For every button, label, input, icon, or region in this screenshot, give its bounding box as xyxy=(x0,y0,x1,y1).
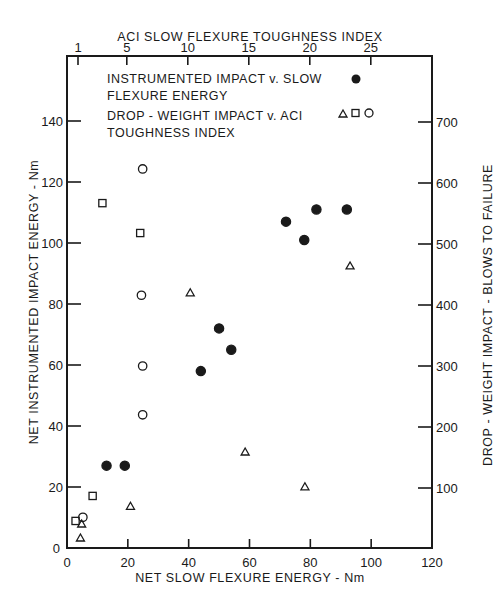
x-tick-label: 60 xyxy=(242,555,256,570)
x-top-tick-label: 1 xyxy=(74,40,81,55)
y-left-tick-label: 40 xyxy=(49,419,63,434)
right-axis-title: DROP - WEIGHT IMPACT - BLOWS TO FAILURE xyxy=(481,164,495,466)
legend: INSTRUMENTED IMPACT v. SLOW FLEXURE ENER… xyxy=(107,72,373,140)
x-tick-label: 40 xyxy=(181,555,195,570)
open-circle-marker xyxy=(79,513,87,521)
top-axis-title: ACI SLOW FLEXURE TOUGHNESS INDEX xyxy=(117,30,382,44)
open-triangle-marker xyxy=(186,289,194,296)
x-tick-label: 80 xyxy=(303,555,317,570)
filled-circle-marker xyxy=(102,461,111,470)
open-square-marker xyxy=(89,492,96,499)
data-markers xyxy=(72,165,354,541)
bottom-axis-title: NET SLOW FLEXURE ENERGY - Nm xyxy=(135,571,365,585)
open-circle-marker xyxy=(137,291,145,299)
x-tick-label: 0 xyxy=(63,555,70,570)
x-tick-label: 20 xyxy=(121,555,135,570)
legend-entry-2-line-2: TOUGHNESS INDEX xyxy=(107,126,235,140)
y-right-tick-label: 700 xyxy=(436,115,458,130)
open-square-marker xyxy=(72,517,79,524)
open-circle-marker xyxy=(138,362,146,370)
filled-circle-marker xyxy=(312,205,321,214)
y-left-tick-label: 80 xyxy=(49,297,63,312)
legend-triangle-icon xyxy=(339,110,347,117)
left-axis-title: NET INSTRUMENTED IMPACT ENERGY - Nm xyxy=(27,160,41,445)
y-left-tick-label: 140 xyxy=(41,114,63,129)
filled-circle-marker xyxy=(120,461,129,470)
y-left-tick-label: 60 xyxy=(49,358,63,373)
legend-square-icon xyxy=(352,110,359,117)
legend-filled-circle-icon xyxy=(352,75,361,84)
filled-circle-marker xyxy=(214,324,223,333)
y-left-tick-label: 120 xyxy=(41,175,63,190)
filled-circle-marker xyxy=(281,217,290,226)
open-triangle-marker xyxy=(346,262,354,269)
y-right-tick-label: 200 xyxy=(436,420,458,435)
filled-circle-marker xyxy=(196,367,205,376)
y-right-tick-label: 400 xyxy=(436,298,458,313)
y-right-tick-label: 100 xyxy=(436,481,458,496)
y-left-tick-label: 0 xyxy=(53,541,60,556)
filled-circle-marker xyxy=(342,205,351,214)
x-tick-label: 120 xyxy=(421,555,443,570)
open-square-marker xyxy=(99,200,106,207)
y-left-tick-label: 100 xyxy=(41,236,63,251)
legend-entry-2-line-1: DROP - WEIGHT IMPACT v. ACI xyxy=(107,109,303,123)
x-tick-label: 100 xyxy=(360,555,382,570)
open-triangle-marker xyxy=(76,534,84,541)
open-triangle-marker xyxy=(241,448,249,455)
y-left-tick-label: 20 xyxy=(49,480,63,495)
open-circle-marker xyxy=(138,165,146,173)
legend-entry-1-line-1: INSTRUMENTED IMPACT v. SLOW xyxy=(107,72,322,86)
y-right-tick-label: 600 xyxy=(436,176,458,191)
legend-entry-1-line-2: FLEXURE ENERGY xyxy=(107,89,228,103)
scatter-chart: 0204060801001200204060801001201401002003… xyxy=(0,0,502,607)
filled-circle-marker xyxy=(300,235,309,244)
y-right-tick-label: 500 xyxy=(436,237,458,252)
open-circle-marker xyxy=(138,411,146,419)
open-square-marker xyxy=(137,229,144,236)
y-right-tick-label: 300 xyxy=(436,359,458,374)
open-triangle-marker xyxy=(126,502,134,509)
legend-open-circle-icon xyxy=(365,109,373,117)
filled-circle-marker xyxy=(227,345,236,354)
open-triangle-marker xyxy=(301,483,309,490)
